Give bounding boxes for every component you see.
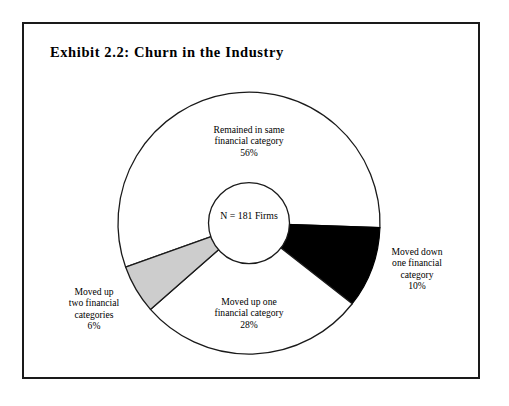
slice-label-moved-up-one-category: Moved up one financial category 28% [174,296,324,330]
slice-label-line-3: category [362,269,472,280]
slice-label-line-2: financial category [174,135,324,146]
slice-label-line-2: one financial [362,257,472,268]
slice-label-line-1: Moved up one [174,296,324,307]
slice-label-line-2: two financial [39,297,149,308]
slice-label-percent: 10% [362,280,472,291]
slice-label-line-1: Remained in same [174,124,324,135]
center-label-line-1: N = 181 [220,210,252,221]
pie-chart: N = 181 Firms Remained in same financial… [24,24,482,381]
slice-label-percent: 56% [174,147,324,158]
slice-label-line-1: Moved down [362,246,472,257]
slice-label-moved-down-one-category: Moved down one financial category 10% [362,246,472,292]
slice-label-line-1: Moved up [39,286,149,297]
slice-label-moved-up-two-categories: Moved up two financial categories 6% [39,286,149,332]
exhibit-figure-page: Exhibit 2.2: Churn in the Industry N = 1… [0,0,509,406]
center-sample-size-label: N = 181 Firms [204,210,294,222]
slice-label-line-2: financial category [174,307,324,318]
slice-label-line-3: categories [39,309,149,320]
figure-frame: Exhibit 2.2: Churn in the Industry N = 1… [22,22,480,379]
pie-center-hole [209,183,290,264]
slice-label-remained-in-same-category: Remained in same financial category 56% [174,124,324,158]
slice-label-percent: 6% [39,320,149,331]
slice-label-percent: 28% [174,319,324,330]
center-label-line-2: Firms [255,210,278,221]
